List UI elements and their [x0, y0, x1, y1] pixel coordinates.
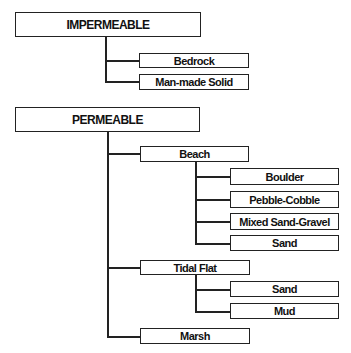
node-boulder: Boulder — [230, 168, 339, 185]
node-mud: Mud — [230, 303, 339, 319]
node-pebble-cobble: Pebble-Cobble — [230, 191, 339, 208]
node-beach-sand: Sand — [230, 235, 339, 251]
connector — [195, 162, 197, 244]
node-label: Man-made Solid — [155, 76, 232, 88]
node-label: PERMEABLE — [72, 113, 143, 127]
node-tidal-flat: Tidal Flat — [140, 260, 250, 275]
node-label: Beach — [179, 148, 210, 160]
node-label: Marsh — [180, 330, 210, 342]
node-label: Sand — [272, 283, 297, 295]
node-marsh: Marsh — [140, 328, 250, 344]
node-label: IMPERMEABLE — [66, 18, 149, 32]
node-label: Pebble-Cobble — [249, 194, 320, 206]
connector — [195, 275, 197, 312]
node-man-made-solid: Man-made Solid — [139, 74, 249, 90]
node-tidal-sand: Sand — [230, 281, 339, 297]
connector — [107, 267, 141, 269]
connector — [195, 243, 231, 245]
node-label: Mud — [274, 305, 295, 317]
connector — [195, 221, 231, 223]
node-label: Sand — [272, 237, 297, 249]
connector — [105, 60, 140, 62]
node-label: Tidal Flat — [173, 262, 216, 274]
node-label: Bedrock — [174, 55, 215, 67]
connector — [107, 132, 109, 337]
node-permeable: PERMEABLE — [15, 107, 200, 132]
connector — [107, 153, 141, 155]
connector — [195, 311, 231, 313]
node-mixed-sand-gravel: Mixed Sand-Gravel — [230, 213, 339, 230]
node-label: Mixed Sand-Gravel — [239, 216, 330, 228]
connector — [195, 176, 231, 178]
node-bedrock: Bedrock — [139, 53, 249, 68]
node-label: Boulder — [265, 171, 303, 183]
connector — [195, 289, 231, 291]
connector — [195, 199, 231, 201]
node-beach: Beach — [140, 146, 249, 162]
node-impermeable: IMPERMEABLE — [15, 12, 201, 37]
connector — [107, 336, 141, 338]
connector — [105, 81, 140, 83]
